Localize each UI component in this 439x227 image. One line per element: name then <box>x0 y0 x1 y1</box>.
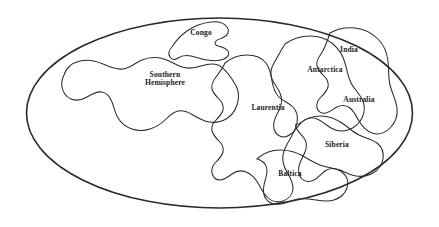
map-background <box>0 0 439 227</box>
map-canvas <box>0 0 439 227</box>
paleogeographic-map-figure: CongoSouthernHemisphereAntarcticaIndiaAu… <box>0 0 439 227</box>
